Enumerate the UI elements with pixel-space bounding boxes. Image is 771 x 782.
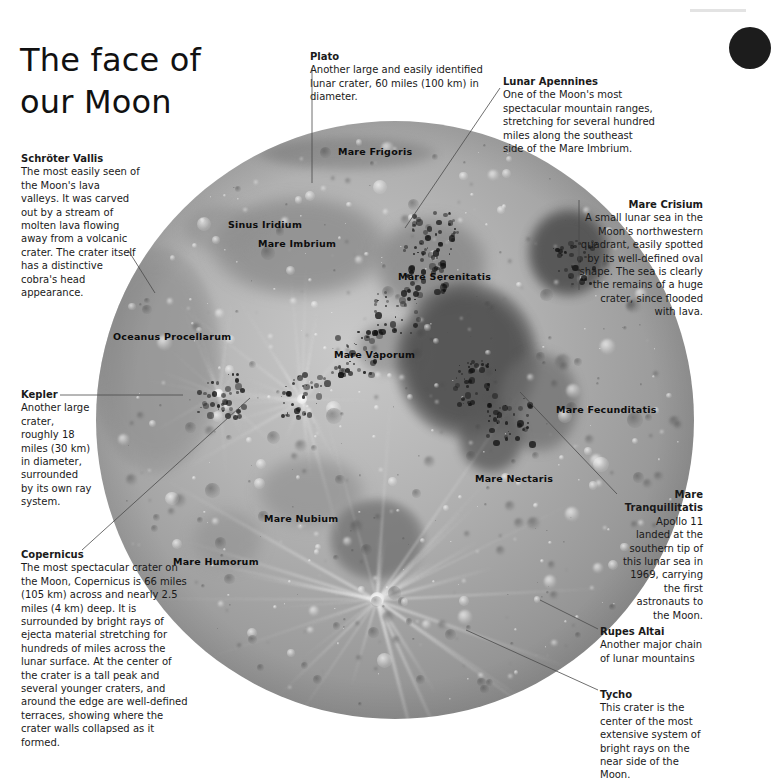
callout-title-mare-tranquillitatis: Mare Tranquillitatis <box>619 488 703 515</box>
callout-copernicus: CopernicusThe most spectacular crater on… <box>21 548 191 749</box>
surface-label-mare-nubium: Mare Nubium <box>264 513 338 524</box>
surface-label-mare-nectaris: Mare Nectaris <box>475 473 553 484</box>
callout-body-schroter-vallis: The most easily seen of the Moon's lava … <box>21 166 140 298</box>
surface-label-mare-vaporum: Mare Vaporum <box>334 349 415 360</box>
callout-body-tycho: This crater is the center of the most ex… <box>600 702 701 780</box>
callout-title-tycho: Tycho <box>600 688 708 701</box>
callout-title-rupes-altai: Rupes Altai <box>600 625 710 638</box>
callout-mare-crisium: Mare CrisiumA small lunar sea in the Moo… <box>578 198 703 319</box>
callout-mare-tranquillitatis: Mare TranquillitatisApollo 11 landed at … <box>619 488 703 622</box>
callout-title-mare-crisium: Mare Crisium <box>578 198 703 211</box>
surface-label-oceanus-procellarum: Oceanus Procellarum <box>113 331 231 342</box>
page-title-line-1: The face of <box>20 41 201 79</box>
callout-body-mare-crisium: A small lunar sea in the Moon's northwes… <box>579 212 703 317</box>
callout-title-plato: Plato <box>310 50 510 63</box>
callout-title-copernicus: Copernicus <box>21 548 191 561</box>
callout-title-kepler: Kepler <box>21 388 93 401</box>
callout-body-mare-tranquillitatis: Apollo 11 landed at the southern tip of … <box>623 516 703 621</box>
callout-body-rupes-altai: Another major chain of lunar mountains <box>600 639 702 663</box>
surface-label-sinus-iridium: Sinus Iridium <box>228 219 302 230</box>
callout-plato: PlatoAnother large and easily identified… <box>310 50 510 104</box>
surface-label-mare-fecunditatis: Mare Fecunditatis <box>556 404 657 415</box>
callout-body-plato: Another large and easily identified luna… <box>310 64 483 102</box>
callout-lunar-apennines: Lunar ApenninesOne of the Moon's most sp… <box>503 75 655 155</box>
surface-label-mare-frigoris: Mare Frigoris <box>338 146 412 157</box>
callout-title-schroter-vallis: Schröter Vallis <box>21 152 141 165</box>
dark-circle-decoration <box>729 27 771 69</box>
callout-kepler: KeplerAnother large crater, roughly 18 m… <box>21 388 93 509</box>
callout-body-copernicus: The most spectacular crater on the Moon,… <box>21 562 188 747</box>
surface-label-mare-serenitatis: Mare Serenitatis <box>398 271 491 282</box>
surface-label-mare-imbrium: Mare Imbrium <box>258 238 336 249</box>
callout-tycho: TychoThis crater is the center of the mo… <box>600 688 708 782</box>
callout-schroter-vallis: Schröter VallisThe most easily seen of t… <box>21 152 141 299</box>
page-title: The face of our Moon <box>20 39 320 123</box>
callout-rupes-altai: Rupes AltaiAnother major chain of lunar … <box>600 625 710 665</box>
page-title-line-2: our Moon <box>20 83 172 121</box>
callout-body-kepler: Another large crater, roughly 18 miles (… <box>21 402 92 507</box>
top-rule <box>690 9 746 12</box>
callout-title-lunar-apennines: Lunar Apennines <box>503 75 655 88</box>
callout-body-lunar-apennines: One of the Moon's most spectacular mount… <box>503 89 655 154</box>
